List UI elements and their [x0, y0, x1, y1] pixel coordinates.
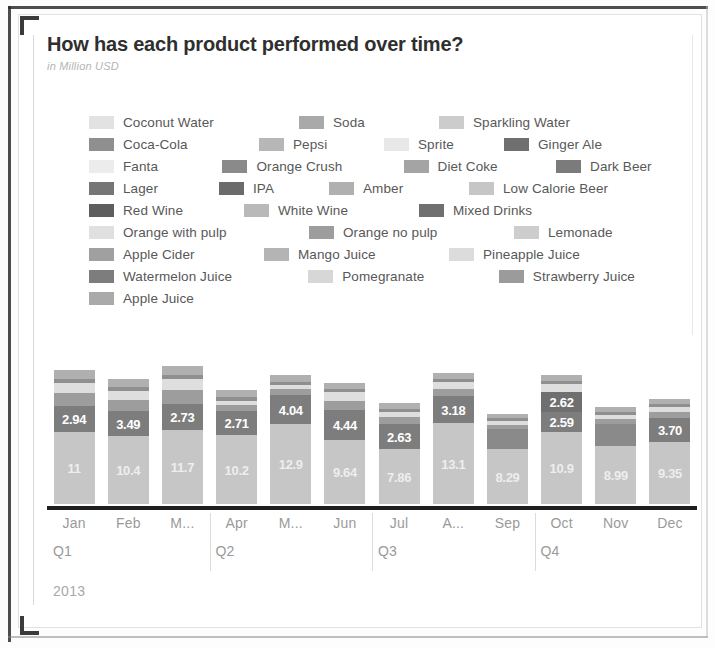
legend-item[interactable]: Fanta [89, 159, 222, 174]
legend-item[interactable]: White Wine [244, 203, 419, 218]
legend-item[interactable]: Low Calorie Beer [469, 181, 679, 196]
bar-segment[interactable] [54, 370, 95, 379]
legend-item[interactable]: IPA [219, 181, 329, 196]
bar-segment[interactable] [433, 382, 474, 389]
legend-item[interactable]: Lemonade [514, 225, 684, 240]
stacked-bar[interactable]: 8.29 [487, 414, 528, 504]
selection-handle-top-left[interactable] [20, 16, 39, 35]
bar-segment[interactable]: 4.44 [324, 410, 365, 440]
bar-segment[interactable]: 2.62 [541, 392, 582, 412]
axis-month-label[interactable]: Jul [372, 515, 426, 531]
axis-month-label[interactable]: Sep [480, 515, 534, 531]
bar-segment[interactable]: 2.94 [54, 406, 95, 432]
legend-item[interactable]: Sparkling Water [439, 115, 639, 130]
bar-segment[interactable]: 10.4 [108, 436, 149, 504]
legend-item[interactable]: Orange with pulp [89, 225, 309, 240]
bar-segment[interactable] [595, 424, 636, 446]
bar-segment[interactable]: 11.7 [162, 430, 203, 504]
stacked-bar[interactable]: 2.9411 [54, 370, 95, 504]
legend-item[interactable]: Lager [89, 181, 219, 196]
bar-segment[interactable] [162, 379, 203, 390]
bar-segment[interactable]: 8.29 [487, 449, 528, 504]
legend-item[interactable]: Orange no pulp [309, 225, 514, 240]
legend-item[interactable]: Ginger Ale [504, 137, 654, 152]
axis-month-label[interactable]: Nov [589, 515, 643, 531]
axis-month-label[interactable]: A... [426, 515, 480, 531]
bar-segment[interactable]: 10.9 [541, 432, 582, 504]
axis-quarter-label[interactable]: Q2 [210, 543, 373, 559]
bar-segment[interactable]: 13.1 [433, 423, 474, 504]
bar-segment[interactable]: 7.86 [379, 449, 420, 504]
legend-item[interactable]: Soda [299, 115, 439, 130]
legend-item[interactable]: Orange Crush [222, 159, 403, 174]
bar-segment[interactable]: 3.70 [649, 418, 690, 442]
legend-item[interactable]: Watermelon Juice [89, 269, 308, 284]
stacked-bar[interactable]: 3.1813.1 [433, 373, 474, 504]
axis-month-label[interactable]: M... [264, 515, 318, 531]
legend-item[interactable]: Apple Cider [89, 247, 264, 262]
stacked-bar[interactable]: 2.7110.2 [216, 390, 257, 504]
bar-segment[interactable] [54, 393, 95, 406]
stacked-bar[interactable]: 4.449.64 [324, 383, 365, 504]
legend-item[interactable]: Amber [329, 181, 469, 196]
bar-segment[interactable] [108, 400, 149, 411]
bar-segment[interactable]: 11 [54, 432, 95, 504]
legend-item[interactable]: Mixed Drinks [419, 203, 599, 218]
stacked-bar[interactable]: 2.622.5910.9 [541, 375, 582, 504]
axis-quarter-label[interactable]: Q3 [372, 543, 535, 559]
axis-month-label[interactable]: Dec [643, 515, 697, 531]
bar-segment[interactable] [487, 429, 528, 449]
bar-segment[interactable] [379, 417, 420, 424]
stacked-bar[interactable]: 2.637.86 [379, 403, 420, 504]
axis-quarter-label[interactable]: Q4 [535, 543, 698, 559]
bar-segment[interactable]: 12.9 [270, 424, 311, 504]
axis-month-label[interactable]: Jun [318, 515, 372, 531]
legend-item[interactable]: Sprite [384, 137, 504, 152]
legend-item[interactable]: Dark Beer [556, 159, 699, 174]
legend-item[interactable]: Red Wine [89, 203, 244, 218]
bar-segment[interactable]: 9.35 [649, 442, 690, 504]
legend-item[interactable]: Strawberry Juice [499, 269, 699, 284]
bar-segment[interactable] [108, 391, 149, 400]
axis-month-label[interactable]: Feb [101, 515, 155, 531]
bar-segment[interactable] [324, 401, 365, 410]
stacked-bar[interactable]: 3.709.35 [649, 399, 690, 504]
legend-item[interactable]: Coconut Water [89, 115, 299, 130]
bar-segment[interactable]: 4.04 [270, 395, 311, 424]
legend-item[interactable]: Apple Juice [89, 291, 269, 306]
bar-segment[interactable]: 10.2 [216, 435, 257, 504]
legend-item[interactable]: Pineapple Juice [449, 247, 649, 262]
bar-segment[interactable] [162, 390, 203, 404]
bar-segment[interactable] [54, 383, 95, 393]
stacked-bar[interactable]: 8.99 [595, 407, 636, 504]
bar-segment[interactable] [270, 375, 311, 382]
axis-month-label[interactable]: Apr [210, 515, 264, 531]
axis-month-label[interactable]: M... [155, 515, 209, 531]
bar-segment[interactable]: 3.18 [433, 396, 474, 423]
bar-segment[interactable]: 2.73 [162, 404, 203, 430]
legend-item[interactable]: Mango Juice [264, 247, 449, 262]
stacked-bar[interactable]: 4.0412.9 [270, 375, 311, 504]
bar-segment[interactable]: 2.59 [541, 412, 582, 432]
stacked-bar[interactable]: 2.7311.7 [162, 366, 203, 504]
bar-segment[interactable]: 8.99 [595, 446, 636, 504]
bar-segment[interactable] [216, 390, 257, 397]
legend-item[interactable]: Pomegranate [308, 269, 499, 284]
bar-segment[interactable]: 3.49 [108, 411, 149, 436]
legend-item[interactable]: Coca-Cola [89, 137, 259, 152]
bar-segment[interactable]: 2.63 [379, 424, 420, 449]
stacked-bar[interactable]: 3.4910.4 [108, 379, 149, 504]
bar-segment[interactable] [324, 392, 365, 401]
axis-month-label[interactable]: Jan [47, 515, 101, 531]
axis-month-label[interactable]: Oct [535, 515, 589, 531]
bar-segment[interactable] [162, 366, 203, 375]
selection-handle-bottom-left[interactable] [20, 616, 39, 635]
bar-segment[interactable] [108, 379, 149, 387]
legend-item[interactable]: Diet Coke [404, 159, 557, 174]
bar-segment[interactable] [433, 389, 474, 396]
legend-item[interactable]: Pepsi [259, 137, 384, 152]
bar-segment[interactable]: 9.64 [324, 440, 365, 504]
bar-segment[interactable] [541, 384, 582, 392]
bar-segment[interactable]: 2.71 [216, 411, 257, 435]
axis-quarter-label[interactable]: Q1 [47, 543, 210, 559]
